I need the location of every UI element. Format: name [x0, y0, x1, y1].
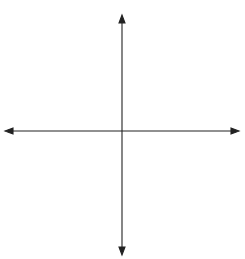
axes: [5, 15, 239, 255]
x-axis-left-arrow-icon: [5, 128, 13, 134]
coordinate-plane: [0, 0, 245, 259]
x-axis-right-arrow-icon: [231, 128, 239, 134]
y-axis-down-arrow-icon: [119, 247, 125, 255]
y-axis-up-arrow-icon: [119, 15, 125, 23]
